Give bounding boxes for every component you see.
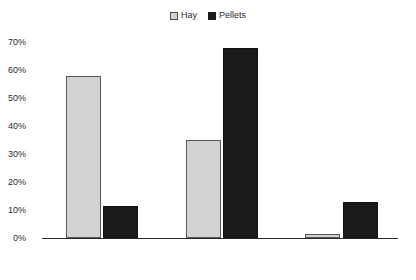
- bar-hay-foraging: [305, 234, 340, 238]
- y-axis-tick-30: 30%: [0, 150, 26, 159]
- y-axis-tick-0: 0%: [0, 234, 26, 243]
- bar-pellets-eating: [103, 206, 138, 238]
- plot-area: 70% 60% 50% 40% 30% 20% 10% 0% Eating St…: [50, 42, 398, 238]
- y-axis-tick-10: 10%: [0, 206, 26, 215]
- bar-hay-eating: [66, 76, 101, 238]
- x-axis-line: [50, 238, 398, 239]
- y-axis-tick-20: 20%: [0, 178, 26, 187]
- legend-item-pellets: Pellets: [208, 11, 246, 20]
- bar-pellets-standing: [223, 48, 258, 238]
- y-axis-tick-40: 40%: [0, 122, 26, 131]
- legend-label-pellets: Pellets: [219, 11, 246, 20]
- y-axis-tick-70: 70%: [0, 38, 26, 47]
- hay-swatch-icon: [170, 12, 178, 20]
- pellets-swatch-icon: [208, 12, 216, 20]
- y-axis-zero-tick: [42, 238, 50, 239]
- bar-hay-standing: [186, 140, 221, 238]
- bar-chart: Hay Pellets 70% 60% 50% 40% 30% 20% 10% …: [0, 0, 416, 280]
- legend-item-hay: Hay: [170, 11, 197, 20]
- chart-legend: Hay Pellets: [0, 11, 416, 20]
- y-axis-tick-60: 60%: [0, 66, 26, 75]
- legend-label-hay: Hay: [181, 11, 197, 20]
- y-axis-tick-50: 50%: [0, 94, 26, 103]
- bar-pellets-foraging: [343, 202, 378, 238]
